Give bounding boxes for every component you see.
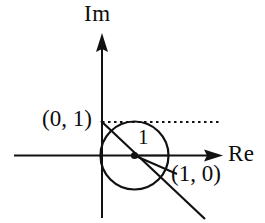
real-axis-label: Re xyxy=(228,142,255,165)
complex-plane-figure: Im Re (0, 1) (1, 0) 1 xyxy=(0,0,265,223)
radius-length-label: 1 xyxy=(138,127,149,148)
diagram-canvas xyxy=(0,0,265,223)
real-axis xyxy=(14,150,223,162)
point-one-zero-label: (1, 0) xyxy=(171,162,221,185)
imaginary-axis-label: Im xyxy=(84,2,111,25)
circle-center-point xyxy=(131,152,138,159)
point-zero-one-label: (0, 1) xyxy=(42,107,92,130)
